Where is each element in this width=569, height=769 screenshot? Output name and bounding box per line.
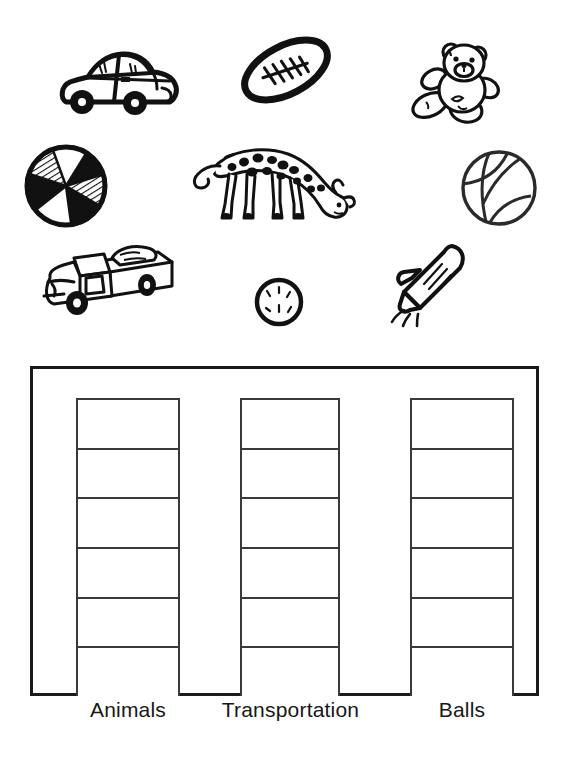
picture-item-baseball[interactable] [252, 275, 306, 329]
graph-column-transportation[interactable] [240, 398, 340, 696]
beach-ball-icon [22, 142, 110, 230]
graph-cell[interactable] [242, 599, 338, 649]
picture-item-basketball[interactable] [459, 148, 539, 228]
teddy-bear-icon [404, 36, 508, 128]
graph-cell[interactable] [78, 599, 178, 649]
graph-axis-labels: Animals Transportation Balls [30, 698, 539, 738]
graph-cell[interactable] [412, 400, 512, 450]
graph-cell[interactable] [78, 499, 178, 549]
graph-cell[interactable] [412, 450, 512, 500]
basketball-icon [459, 148, 539, 228]
rocket-icon [390, 242, 474, 328]
picture-item-teddy-bear[interactable] [404, 36, 508, 128]
picture-item-rocket[interactable] [390, 242, 474, 328]
pickup-truck-icon [34, 238, 178, 322]
graph-cell[interactable] [78, 648, 178, 696]
graph-cell[interactable] [78, 549, 178, 599]
worksheet-page: Animals Transportation Balls [0, 0, 569, 769]
tally-graph [30, 366, 539, 696]
picture-item-pickup-truck[interactable] [34, 238, 178, 322]
graph-cell[interactable] [412, 648, 512, 696]
giraffe-icon [184, 138, 356, 230]
picture-item-giraffe[interactable] [184, 138, 356, 230]
graph-cell[interactable] [78, 450, 178, 500]
car-icon [52, 40, 180, 122]
graph-cell[interactable] [242, 648, 338, 696]
graph-cell[interactable] [242, 450, 338, 500]
football-icon [236, 32, 336, 108]
graph-cell[interactable] [242, 499, 338, 549]
picture-item-football[interactable] [236, 32, 336, 108]
axis-label-balls: Balls [410, 698, 514, 722]
graph-cell[interactable] [412, 599, 512, 649]
axis-label-animals: Animals [76, 698, 180, 722]
graph-cell[interactable] [78, 400, 178, 450]
graph-column-animals[interactable] [76, 398, 180, 696]
picture-item-car[interactable] [52, 40, 180, 122]
picture-bank [0, 0, 569, 350]
axis-label-transportation: Transportation [208, 698, 373, 722]
graph-column-balls[interactable] [410, 398, 514, 696]
graph-cell[interactable] [412, 499, 512, 549]
graph-cell[interactable] [242, 549, 338, 599]
picture-item-beach-ball[interactable] [22, 142, 110, 230]
graph-cell[interactable] [412, 549, 512, 599]
baseball-icon [252, 275, 306, 329]
graph-cell[interactable] [242, 400, 338, 450]
